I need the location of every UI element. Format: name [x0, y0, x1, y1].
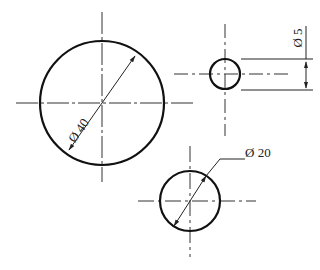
small-circle-group: Ø 5 — [174, 24, 313, 136]
small-circle-diameter-label: Ø 5 — [290, 28, 305, 47]
medium-circle-leader — [206, 159, 245, 176]
large-circle-diameter-label: Ø 40 — [65, 116, 92, 146]
technical-drawing: Ø 40 Ø 5 Ø 20 — [0, 0, 320, 270]
medium-circle-group: Ø 20 — [138, 145, 271, 257]
medium-circle-diameter-label: Ø 20 — [245, 145, 271, 160]
large-circle-group: Ø 40 — [16, 12, 196, 182]
